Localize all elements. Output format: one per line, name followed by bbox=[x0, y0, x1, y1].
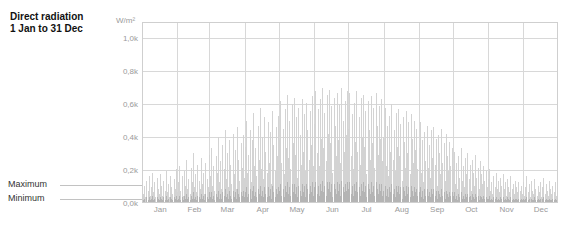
x-axis-tick-labels: JanFebMarAprMayJunJulAugSepOctNovDec bbox=[142, 205, 558, 221]
plot-area bbox=[142, 22, 558, 203]
y-axis-tick-label: 0,2k bbox=[123, 166, 138, 175]
annotation-label: Maximum bbox=[8, 179, 47, 189]
annotation-label: Minimum bbox=[8, 193, 45, 203]
y-axis-tick-label: 1,0k bbox=[123, 34, 138, 43]
y-axis-tick-label: 0,8k bbox=[123, 67, 138, 76]
chart-subtitle: 1 Jan to 31 Dec bbox=[10, 23, 83, 35]
annotation-leader-line bbox=[60, 199, 142, 200]
y-axis-tick-labels: 1,0k0,8k0,6k0,4k0,2k0,0k bbox=[104, 22, 138, 203]
chart-title-block: Direct radiation 1 Jan to 31 Dec bbox=[10, 11, 83, 35]
chart-title: Direct radiation bbox=[10, 11, 83, 23]
y-axis-tick-label: 0,4k bbox=[123, 133, 138, 142]
y-axis-tick-label: 0,6k bbox=[123, 100, 138, 109]
annotation-leader-line bbox=[60, 185, 142, 186]
bar-series-layer bbox=[143, 23, 557, 202]
annotation-maximum: Maximum bbox=[8, 182, 576, 192]
annotation-minimum: Minimum bbox=[8, 196, 576, 206]
